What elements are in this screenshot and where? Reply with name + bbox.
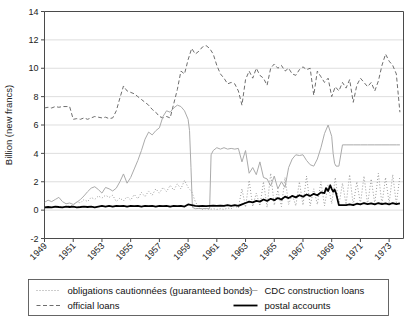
legend-label-3: postal accounts xyxy=(265,300,331,311)
y-tick-label: 10 xyxy=(28,63,38,73)
y-tick-label: -2 xyxy=(30,234,38,244)
y-tick-label: 12 xyxy=(28,35,38,45)
y-tick-label: 14 xyxy=(28,7,38,17)
y-tick-label: 8 xyxy=(33,92,38,102)
legend-label-1: CDC construction loans xyxy=(265,285,365,296)
chart-canvas: -202468101214 19491951195319551957195919… xyxy=(0,0,417,320)
chart-legend: obligations cautionnées (guaranteed bond… xyxy=(29,280,389,316)
y-axis-label: Billion (new francs) xyxy=(3,85,14,165)
legend-label-2: official loans xyxy=(68,300,120,311)
y-tick-label: 6 xyxy=(33,120,38,130)
chart-figure: -202468101214 19491951195319551957195919… xyxy=(0,0,417,320)
legend-label-0: obligations cautionnées (guaranteed bond… xyxy=(68,285,253,296)
y-tick-label: 2 xyxy=(33,177,38,187)
y-tick-label: 4 xyxy=(33,149,38,159)
y-tick-label: 0 xyxy=(33,205,38,215)
